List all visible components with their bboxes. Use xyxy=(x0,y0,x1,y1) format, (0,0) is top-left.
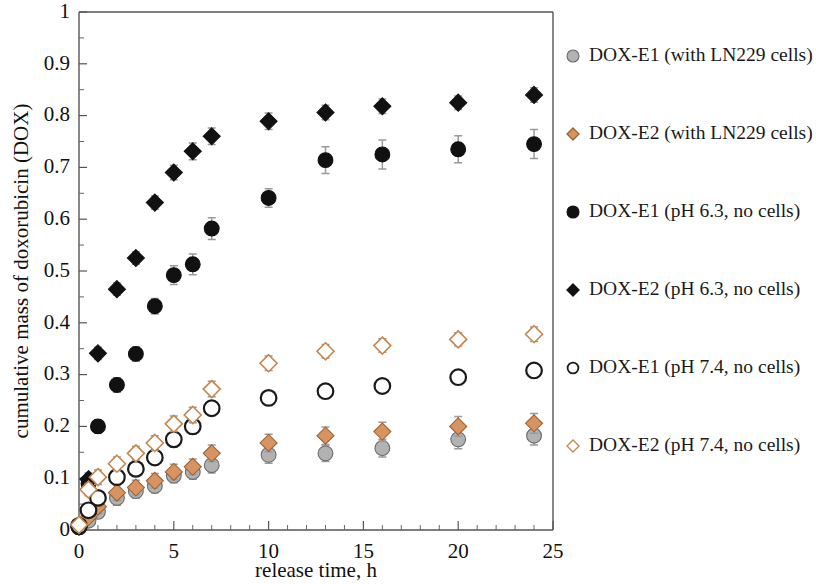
legend-item-1[interactable]: DOX-E1 (with LN229 cells) xyxy=(567,44,813,66)
data-point-marker xyxy=(527,137,542,152)
legend-item-6[interactable]: DOX-E2 (pH 7.4, no cells) xyxy=(567,434,800,456)
data-point-marker xyxy=(526,363,542,379)
data-point-marker xyxy=(317,427,334,444)
data-point-marker xyxy=(110,378,125,393)
legend: DOX-E1 (with LN229 cells)DOX-E2 (with LN… xyxy=(567,44,813,456)
legend-item-3[interactable]: DOX-E1 (pH 6.3, no cells) xyxy=(567,200,800,222)
legend-marker-icon xyxy=(567,206,579,218)
legend-marker-icon xyxy=(568,363,579,374)
data-point-marker xyxy=(203,128,220,145)
y-tick-label: 0.3 xyxy=(44,361,70,385)
data-point-marker xyxy=(375,378,391,394)
data-point-marker xyxy=(450,94,467,111)
x-tick-label: 0 xyxy=(74,539,85,563)
data-point-marker xyxy=(146,434,163,451)
data-point-marker xyxy=(526,415,543,432)
data-point-marker xyxy=(108,455,125,472)
data-point-marker xyxy=(166,268,181,283)
data-point-marker xyxy=(450,418,467,435)
y-tick-label: 0.8 xyxy=(44,102,70,126)
data-point-marker xyxy=(374,337,391,354)
data-point-marker xyxy=(127,445,144,462)
data-point-marker xyxy=(91,419,106,434)
x-axis-title: release time, h xyxy=(255,558,377,582)
data-point-marker xyxy=(318,446,333,461)
data-point-marker xyxy=(203,445,220,462)
data-point-marker xyxy=(526,86,543,103)
data-point-marker xyxy=(166,432,182,448)
legend-label: DOX-E1 (with LN229 cells) xyxy=(589,44,813,66)
data-point-marker xyxy=(146,194,163,211)
legend-item-2[interactable]: DOX-E2 (with LN229 cells) xyxy=(567,122,813,144)
data-point-marker xyxy=(204,400,220,416)
y-tick-label: 0.4 xyxy=(44,310,71,334)
legend-marker-icon xyxy=(567,440,579,452)
data-point-marker xyxy=(318,383,334,399)
data-point-marker xyxy=(374,98,391,115)
legend-item-5[interactable]: DOX-E1 (pH 7.4, no cells) xyxy=(568,356,801,378)
chart-canvas: 00.10.20.30.40.50.60.70.80.910510152025 … xyxy=(0,0,816,584)
data-point-marker xyxy=(108,281,125,298)
data-point-marker xyxy=(526,326,543,343)
legend-marker-icon xyxy=(567,50,579,62)
data-point-marker xyxy=(374,423,391,440)
release-profile-figure: 00.10.20.30.40.50.60.70.80.910510152025 … xyxy=(0,0,816,584)
data-point-marker xyxy=(147,299,162,314)
legend-label: DOX-E1 (pH 7.4, no cells) xyxy=(589,356,800,378)
data-point-marker xyxy=(375,147,390,162)
legend-marker-icon xyxy=(567,284,579,296)
data-points-layer xyxy=(71,86,543,535)
data-point-marker xyxy=(261,191,276,206)
data-point-marker xyxy=(318,153,333,168)
data-point-marker xyxy=(203,381,220,398)
legend-marker-icon xyxy=(567,128,579,140)
x-tick-label: 20 xyxy=(448,539,469,563)
data-point-marker xyxy=(127,250,144,267)
data-point-marker xyxy=(165,164,182,181)
data-point-marker xyxy=(260,113,277,130)
data-point-marker xyxy=(260,434,277,451)
legend-label: DOX-E2 (pH 7.4, no cells) xyxy=(589,434,800,456)
data-point-marker xyxy=(450,331,467,348)
y-tick-label: 0.1 xyxy=(44,465,70,489)
y-tick-label: 0.9 xyxy=(44,51,70,75)
y-tick-label: 0 xyxy=(60,517,71,541)
data-point-marker xyxy=(204,221,219,236)
legend-label: DOX-E2 (pH 6.3, no cells) xyxy=(589,278,800,300)
series-5 xyxy=(71,363,542,534)
data-point-marker xyxy=(260,355,277,372)
series-1 xyxy=(72,426,542,534)
data-point-marker xyxy=(128,346,143,361)
data-point-marker xyxy=(165,415,182,432)
data-point-marker xyxy=(450,369,466,385)
legend-item-4[interactable]: DOX-E2 (pH 6.3, no cells) xyxy=(567,278,800,300)
data-point-marker xyxy=(89,345,106,362)
y-tick-label: 0.7 xyxy=(44,154,70,178)
x-tick-label: 25 xyxy=(543,539,564,563)
x-tick-label: 5 xyxy=(169,539,180,563)
data-point-marker xyxy=(185,257,200,272)
legend-label: DOX-E1 (pH 6.3, no cells) xyxy=(589,200,800,222)
data-point-marker xyxy=(128,461,144,477)
y-tick-label: 0.5 xyxy=(44,258,70,282)
data-point-marker xyxy=(261,390,277,406)
data-point-marker xyxy=(375,441,390,456)
y-tick-label: 1 xyxy=(60,0,71,23)
y-tick-label: 0.2 xyxy=(44,413,70,437)
y-axis-title: cumulative mass of doxorubicin (DOX) xyxy=(9,104,33,439)
data-point-marker xyxy=(184,143,201,160)
data-point-marker xyxy=(317,343,334,360)
y-tick-label: 0.6 xyxy=(44,206,70,230)
data-point-marker xyxy=(451,142,466,157)
legend-label: DOX-E2 (with LN229 cells) xyxy=(589,122,813,144)
data-point-marker xyxy=(317,104,334,121)
